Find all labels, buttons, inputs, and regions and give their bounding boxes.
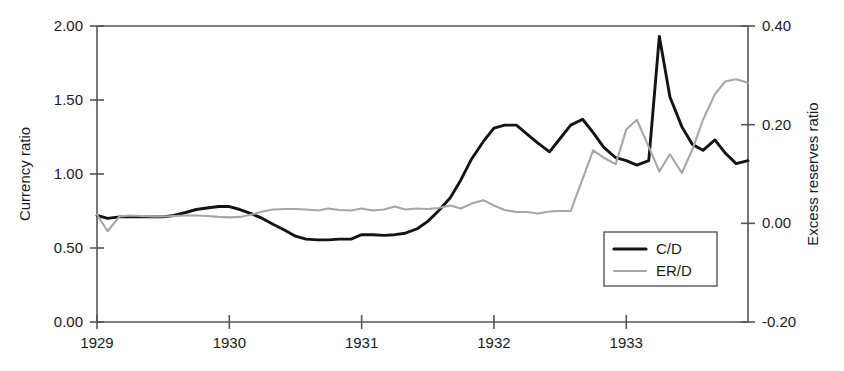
axis-titles: Currency ratioExcess reserves ratio: [16, 102, 821, 245]
line-chart: 0.000.501.001.502.00-0.200.000.200.40192…: [0, 0, 844, 371]
series-lines: [97, 36, 748, 240]
left-tick-label: 1.50: [54, 91, 83, 108]
left-tick-label: 2.00: [54, 17, 83, 34]
x-tick-label: 1933: [610, 334, 643, 351]
right-axis-title: Excess reserves ratio: [804, 102, 821, 245]
right-tick-label: -0.20: [762, 313, 796, 330]
left-tick-label: 0.00: [54, 313, 83, 330]
tick-labels: 0.000.501.001.502.00-0.200.000.200.40192…: [54, 17, 796, 351]
left-tick-label: 1.00: [54, 165, 83, 182]
right-tick-label: 0.40: [762, 17, 791, 34]
left-tick-label: 0.50: [54, 239, 83, 256]
x-tick-label: 1932: [477, 334, 510, 351]
right-tick-label: 0.20: [762, 116, 791, 133]
chart-legend[interactable]: C/DER/D: [604, 232, 717, 286]
x-tick-label: 1929: [80, 334, 113, 351]
x-tick-label: 1931: [345, 334, 378, 351]
legend-label-c-d[interactable]: C/D: [656, 240, 682, 257]
legend-label-er-d[interactable]: ER/D: [656, 262, 692, 279]
right-tick-label: 0.00: [762, 214, 791, 231]
left-axis-title: Currency ratio: [16, 127, 33, 221]
x-tick-label: 1930: [213, 334, 246, 351]
chart-container: 0.000.501.001.502.00-0.200.000.200.40192…: [0, 0, 844, 371]
